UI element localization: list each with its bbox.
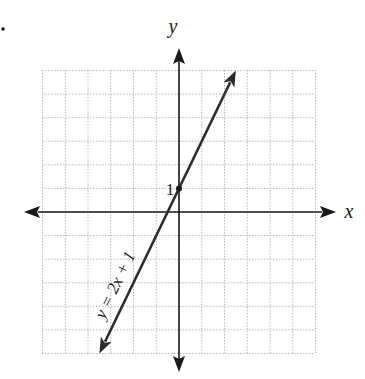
problem-marker-dot bbox=[1, 27, 5, 31]
y-axis bbox=[173, 48, 185, 372]
x-axis bbox=[24, 206, 336, 218]
y-axis-label: y bbox=[167, 15, 178, 38]
x-axis-right-arrow-icon bbox=[320, 206, 336, 218]
intercept-label: 1 bbox=[166, 180, 175, 199]
x-axis-label: x bbox=[344, 200, 354, 222]
coordinate-plane: y x 1 y = 2x + 1 bbox=[0, 0, 365, 379]
x-axis-left-arrow-icon bbox=[24, 206, 40, 218]
y-intercept-point bbox=[176, 185, 182, 191]
